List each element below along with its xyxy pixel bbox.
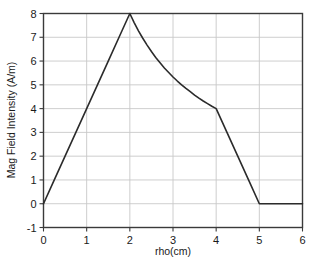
x-tick-label: 2: [127, 234, 133, 246]
x-tick-label: 4: [213, 234, 219, 246]
y-tick-label: 6: [30, 55, 36, 67]
x-tick-label: 0: [40, 234, 46, 246]
x-tick-label: 1: [84, 234, 90, 246]
y-tick-label: 2: [30, 150, 36, 162]
y-axis-title: Mag Field Intensity (A/m): [5, 62, 17, 179]
y-tick-label: 0: [30, 198, 36, 210]
figure-background: [0, 0, 317, 270]
y-tick-label: 5: [30, 79, 36, 91]
magnetic-field-line-chart: 0123456 -1012345678 rho(cm) Mag Field In…: [0, 0, 317, 270]
x-tick-label: 6: [299, 234, 305, 246]
chart-figure: 0123456 -1012345678 rho(cm) Mag Field In…: [0, 0, 317, 270]
y-tick-label: -1: [27, 222, 37, 234]
y-tick-label: 8: [30, 8, 36, 20]
x-tick-label: 5: [256, 234, 262, 246]
y-tick-label: 3: [30, 126, 36, 138]
y-tick-label: 4: [30, 103, 36, 115]
x-tick-label: 3: [170, 234, 176, 246]
x-axis-title: rho(cm): [155, 245, 191, 257]
y-tick-label: 7: [30, 31, 36, 43]
y-tick-label: 1: [30, 174, 36, 186]
